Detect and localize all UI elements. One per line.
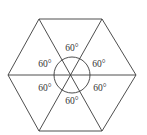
angle-label-upper-left: 60° xyxy=(38,59,52,69)
angle-label-bottom: 60° xyxy=(65,96,79,106)
angle-label-lower-right: 60° xyxy=(93,83,107,93)
angle-labels: 60° 60° 60° 60° 60° 60° xyxy=(38,43,107,106)
hexagon-diagram: 60° 60° 60° 60° 60° 60° xyxy=(0,0,147,135)
angle-label-upper-right: 60° xyxy=(92,59,106,69)
angle-label-lower-left: 60° xyxy=(38,83,52,93)
angle-label-top: 60° xyxy=(65,43,79,53)
diagonals xyxy=(8,19,136,131)
